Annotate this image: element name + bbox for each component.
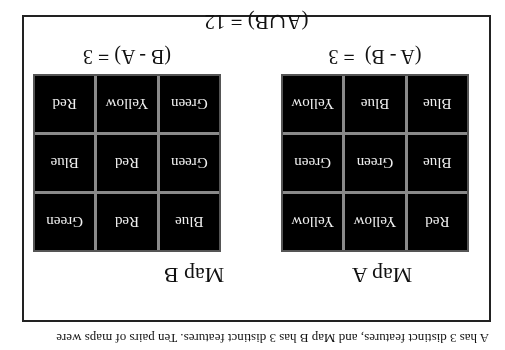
map-a-cell: Green bbox=[345, 135, 404, 191]
map-b-cell: Red bbox=[97, 194, 156, 250]
figure: A has 3 distinct features, and Map B has… bbox=[0, 0, 505, 350]
map-a-cell: Blue bbox=[408, 76, 467, 132]
map-b-cell: Blue bbox=[35, 135, 94, 191]
a-minus-b-label: (A - B) = 3 bbox=[275, 45, 475, 68]
map-a-cell: Blue bbox=[345, 76, 404, 132]
figure-caption: A has 3 distinct features, and Map B has… bbox=[0, 328, 505, 346]
figure-frame: Map A Map B Red Yellow Yellow Blue Green… bbox=[22, 15, 491, 322]
map-a-cell: Green bbox=[283, 135, 342, 191]
map-b-cell: Yellow bbox=[97, 76, 156, 132]
map-b-cell: Green bbox=[35, 194, 94, 250]
map-a-cell: Yellow bbox=[283, 194, 342, 250]
map-b-title: Map B bbox=[99, 262, 289, 288]
map-a-cell: Red bbox=[408, 194, 467, 250]
map-a-cell: Yellow bbox=[283, 76, 342, 132]
union-label: (A∪B) = 12 bbox=[24, 9, 489, 34]
map-a-title: Map A bbox=[287, 262, 477, 288]
map-a-grid: Red Yellow Yellow Blue Green Green Blue … bbox=[281, 74, 469, 252]
b-minus-a-label: (B - A) = 3 bbox=[27, 45, 227, 68]
map-b-cell: Red bbox=[97, 135, 156, 191]
map-b-cell: Green bbox=[160, 135, 219, 191]
map-a-cell: Blue bbox=[408, 135, 467, 191]
map-a-cell: Yellow bbox=[345, 194, 404, 250]
map-b-cell: Blue bbox=[160, 194, 219, 250]
map-b-cell: Green bbox=[160, 76, 219, 132]
map-b-cell: Red bbox=[35, 76, 94, 132]
map-b-grid: Blue Red Green Green Red Blue Green Yell… bbox=[33, 74, 221, 252]
